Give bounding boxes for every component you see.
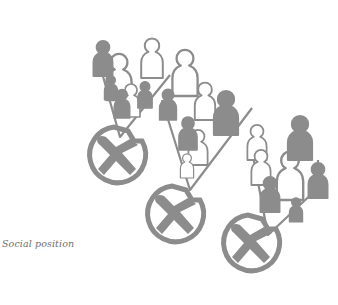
person-filled-icon: [214, 91, 238, 135]
people-group-1: [93, 38, 170, 137]
person-outline-icon: [141, 38, 163, 78]
figure-caption: Social position: [2, 238, 74, 249]
social-position-illustration: [0, 0, 338, 305]
person-outline-icon: [180, 154, 193, 178]
person-outline-icon: [172, 50, 197, 96]
person-filled-icon: [160, 89, 177, 120]
wheel-1-icon: [90, 127, 146, 183]
person-filled-icon: [260, 177, 279, 212]
person-filled-icon: [289, 198, 302, 222]
person-filled-icon: [138, 82, 152, 108]
wheel-2-icon: [148, 186, 204, 242]
person-outline-icon: [195, 83, 215, 120]
person-filled-icon: [308, 163, 327, 198]
wheel-3-icon: [224, 215, 280, 271]
person-filled-icon: [288, 116, 312, 160]
person-filled-icon: [179, 117, 197, 150]
person-filled-icon: [93, 41, 112, 76]
person-filled-icon: [104, 76, 117, 100]
people-group-2: [160, 50, 252, 190]
